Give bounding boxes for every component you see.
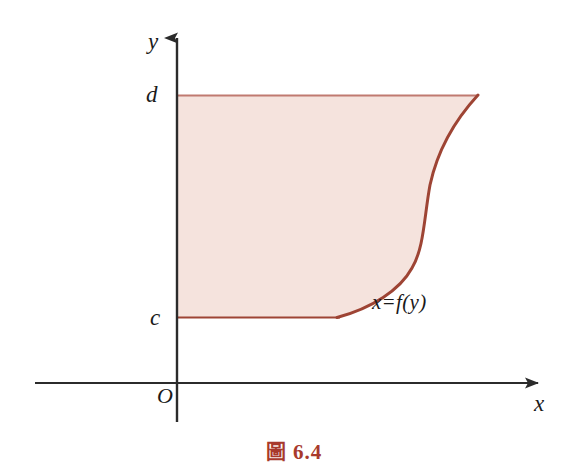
figure-container: y x d c O x=f(y) 圖6.4 [0,0,588,475]
curve-equation-label: x=f(y) [372,292,426,313]
figure-graphic [0,0,588,475]
upper-bound-label: d [146,83,158,106]
origin-label: O [157,385,173,407]
y-axis-label: y [148,30,158,53]
figure-caption-word: 圖 [266,440,287,464]
figure-caption-number: 6.4 [293,440,322,464]
shaded-region [177,95,478,317]
x-axis-label: x [534,392,544,415]
lower-bound-label: c [150,306,160,329]
figure-caption: 圖6.4 [0,436,588,465]
